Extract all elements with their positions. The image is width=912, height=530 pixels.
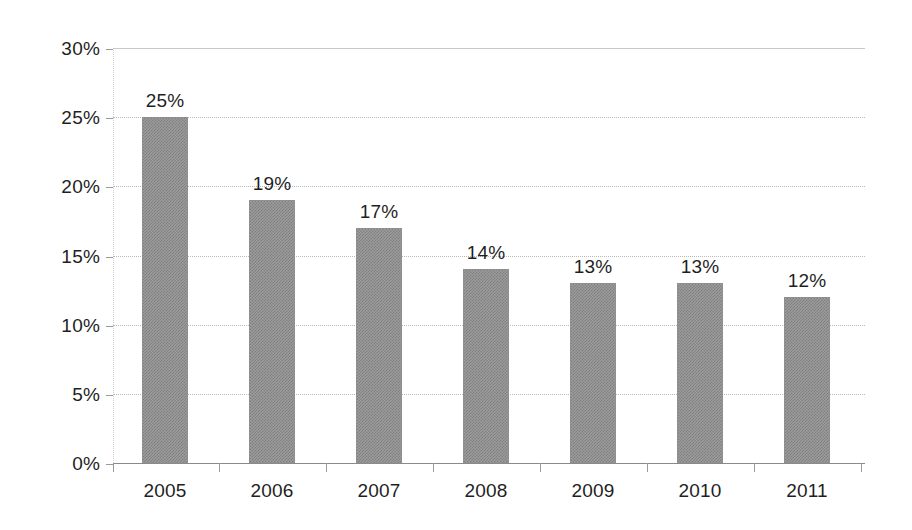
y-tick-mark-10 (106, 326, 113, 327)
gridline-25: 25% (113, 117, 865, 118)
x-axis-baseline: 0% (113, 463, 865, 464)
bar-label-2006: 19% (253, 173, 292, 195)
x-tick-mark-1 (219, 463, 220, 472)
x-axis-label-2005: 2005 (143, 480, 186, 502)
x-tick-mark-4 (540, 463, 541, 472)
x-axis-label-2010: 2010 (678, 480, 721, 502)
bar-2007 (356, 228, 402, 463)
y-tick-mark-15 (106, 257, 113, 258)
bar-label-2011: 12% (788, 270, 827, 292)
bar-2011 (784, 297, 830, 463)
bar-2008 (463, 269, 509, 463)
gridline-30: 30% (113, 48, 865, 49)
y-tick-mark-25 (106, 118, 113, 119)
y-tick-label-20: 20% (61, 176, 100, 198)
y-tick-label-30: 30% (61, 38, 100, 60)
gridline-20: 20% (113, 186, 865, 187)
x-axis-label-2008: 2008 (464, 480, 507, 502)
x-axis-label-2009: 2009 (571, 480, 614, 502)
y-tick-mark-5 (106, 395, 113, 396)
x-tick-mark-7 (861, 463, 862, 472)
plot-area: 30% 25% 20% 15% 10% 5% 0% (113, 48, 865, 463)
x-tick-mark-2 (326, 463, 327, 472)
bar-2006 (249, 200, 295, 463)
bar-2010 (677, 283, 723, 463)
x-axis-label-2007: 2007 (357, 480, 400, 502)
y-tick-label-0: 0% (72, 453, 100, 475)
bar-label-2009: 13% (574, 256, 613, 278)
x-axis-label-2011: 2011 (786, 480, 828, 502)
x-tick-mark-6 (754, 463, 755, 472)
y-tick-label-15: 15% (61, 246, 100, 268)
bar-label-2005: 25% (146, 90, 185, 112)
x-tick-mark-0 (113, 463, 114, 472)
bar-2009 (570, 283, 616, 463)
y-tick-label-25: 25% (61, 107, 100, 129)
bar-chart: 30% 25% 20% 15% 10% 5% 0% (0, 0, 912, 530)
y-tick-label-5: 5% (72, 384, 100, 406)
y-tick-mark-30 (106, 49, 113, 50)
x-tick-mark-5 (647, 463, 648, 472)
x-tick-mark-3 (433, 463, 434, 472)
x-axis-label-2006: 2006 (250, 480, 293, 502)
y-tick-mark-0 (106, 464, 113, 465)
bar-label-2008: 14% (467, 242, 506, 264)
y-tick-mark-20 (106, 187, 113, 188)
y-tick-label-10: 10% (61, 315, 100, 337)
bar-label-2010: 13% (681, 256, 720, 278)
bar-2005 (142, 117, 188, 463)
bar-label-2007: 17% (360, 201, 399, 223)
